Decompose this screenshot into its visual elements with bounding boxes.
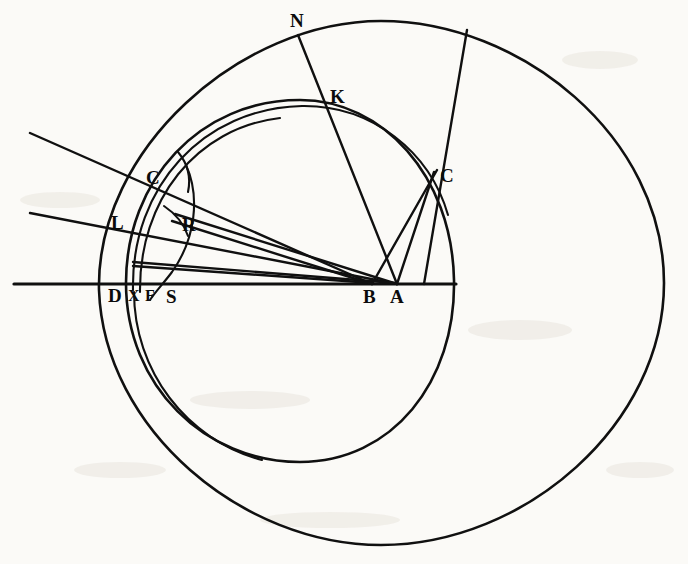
label-R: R bbox=[182, 214, 196, 235]
label-F: F bbox=[145, 287, 155, 304]
label-K: K bbox=[330, 86, 345, 107]
label-N: N bbox=[290, 10, 304, 31]
label-C-left: C bbox=[146, 167, 160, 188]
label-B: B bbox=[363, 286, 376, 307]
incident-ray-upper bbox=[30, 133, 372, 284]
ray-topright-to-A bbox=[424, 30, 467, 284]
label-C-right: C bbox=[440, 165, 454, 186]
diagram-canvas: N K C C L R D X F S B A bbox=[0, 0, 688, 564]
label-D: D bbox=[108, 285, 122, 306]
inner-oval bbox=[126, 100, 454, 462]
oval-lower-left-arc bbox=[134, 292, 262, 460]
inner-thin-arc bbox=[140, 118, 280, 292]
label-S: S bbox=[166, 286, 177, 307]
label-A: A bbox=[390, 286, 404, 307]
ray-N-to-A bbox=[298, 35, 397, 284]
label-X: X bbox=[128, 287, 140, 304]
label-L: L bbox=[111, 212, 124, 233]
ray-R-to-B bbox=[172, 221, 372, 284]
optics-diagram-figure: N K C C L R D X F S B A bbox=[0, 0, 688, 564]
